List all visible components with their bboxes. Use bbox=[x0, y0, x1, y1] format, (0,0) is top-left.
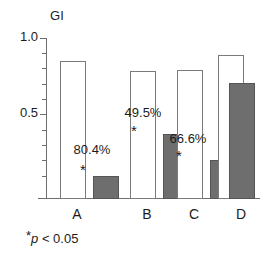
y-tick-minor bbox=[42, 130, 46, 131]
y-axis-label: GI bbox=[50, 8, 64, 23]
y-tick-minor bbox=[42, 53, 46, 54]
y-tick-major bbox=[40, 114, 46, 115]
x-category-label-B: B bbox=[130, 206, 164, 222]
footnote-threshold: < 0.05 bbox=[38, 231, 78, 246]
chart-figure: GI 1.0 0.5 80.4 bbox=[0, 0, 279, 255]
y-tick-minor bbox=[42, 84, 46, 85]
y-tick-minor bbox=[42, 160, 46, 161]
significance-star-A: * bbox=[68, 167, 98, 173]
y-axis-line bbox=[46, 38, 47, 199]
bar-open-A bbox=[60, 61, 86, 199]
significance-star-C: * bbox=[164, 153, 194, 159]
x-category-label-D: D bbox=[224, 206, 258, 222]
data-label-B: 49.5% bbox=[113, 105, 173, 120]
data-label-C: 66.6% bbox=[158, 131, 218, 146]
bar-filled-A bbox=[93, 176, 119, 199]
y-tick-minor bbox=[42, 145, 46, 146]
x-category-label-A: A bbox=[60, 206, 94, 222]
footnote: *p < 0.05 bbox=[26, 228, 78, 246]
y-tick-label-0.5: 0.5 bbox=[20, 105, 38, 120]
x-category-label-C: C bbox=[177, 206, 211, 222]
y-tick-minor bbox=[42, 99, 46, 100]
y-tick-major bbox=[40, 38, 46, 39]
data-label-A: 80.4% bbox=[62, 142, 122, 157]
y-tick-minor bbox=[42, 68, 46, 69]
significance-star-B: * bbox=[119, 128, 149, 134]
y-tick-minor bbox=[42, 176, 46, 177]
y-tick-label-1.0: 1.0 bbox=[20, 29, 38, 44]
bar-filled-D bbox=[229, 83, 255, 199]
